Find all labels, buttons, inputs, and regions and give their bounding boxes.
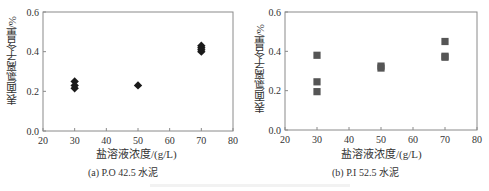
data-point xyxy=(441,54,448,61)
y-axis-label-a: 表面氯离子含量/% xyxy=(4,16,20,105)
figure-caption-truncated xyxy=(150,184,350,187)
x-axis-label-a: 盐溶液浓度/(g/L) xyxy=(96,145,177,161)
x-tick-label: 30 xyxy=(70,135,80,146)
x-tick-label: 60 xyxy=(408,134,418,145)
x-tick-label: 70 xyxy=(196,135,206,146)
plot-frame xyxy=(43,12,233,131)
data-point xyxy=(313,52,320,59)
data-point xyxy=(377,64,384,71)
y-axis-label-b: 表面氯离子含量/% xyxy=(252,24,268,113)
x-tick-label: 40 xyxy=(344,134,354,145)
y-tick-label: 0.4 xyxy=(27,46,40,57)
plot-area-a: 203040506070800.00.20.40.6 xyxy=(0,0,245,191)
y-tick-label: 0.0 xyxy=(269,125,282,136)
data-point xyxy=(313,88,320,95)
y-tick-label: 0.6 xyxy=(269,7,282,18)
x-tick-label: 30 xyxy=(312,134,322,145)
y-tick-label: 0.0 xyxy=(27,126,40,137)
x-tick-label: 80 xyxy=(228,135,238,146)
chart-panel-b: 203040506070800.00.20.40.6 表面氯离子含量/% 盐溶液… xyxy=(245,0,489,191)
plot-area-b: 203040506070800.00.20.40.6 xyxy=(245,0,489,191)
y-tick-label: 0.2 xyxy=(27,86,40,97)
chart-panel-a: 203040506070800.00.20.40.6 表面氯离子含量/% 盐溶液… xyxy=(0,0,245,191)
x-axis-label-b: 盐溶液浓度/(g/L) xyxy=(341,145,422,161)
y-tick-label: 0.2 xyxy=(269,85,282,96)
data-point xyxy=(313,78,320,85)
x-tick-label: 20 xyxy=(280,134,290,145)
data-point xyxy=(441,38,448,45)
caption-a: (a) P.O 42.5 水泥 xyxy=(88,164,158,179)
x-tick-label: 20 xyxy=(38,135,48,146)
x-tick-label: 80 xyxy=(472,134,482,145)
y-tick-label: 0.6 xyxy=(27,7,40,18)
data-point xyxy=(134,81,142,89)
x-tick-label: 70 xyxy=(440,134,450,145)
y-tick-label: 0.4 xyxy=(269,46,282,57)
caption-b: (b) P.I 52.5 水泥 xyxy=(332,164,399,179)
x-tick-label: 50 xyxy=(376,134,386,145)
